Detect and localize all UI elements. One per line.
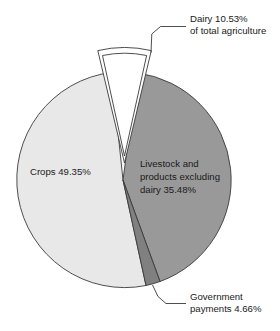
label-livestock-line3: dairy 35.48%	[140, 184, 196, 195]
label-government-payments-line1: Government	[190, 291, 243, 302]
leader-line-dairy	[151, 27, 186, 53]
leader-line-government-payments	[153, 285, 187, 304]
label-dairy-line1: Dairy 10.53%	[190, 13, 248, 24]
pie-chart-figure: Dairy 10.53% of total agriculture Crops …	[0, 0, 280, 331]
pie-chart-svg: Dairy 10.53% of total agriculture Crops …	[0, 0, 280, 331]
label-crops: Crops 49.35%	[30, 166, 91, 177]
label-government-payments-line2: payments 4.66%	[190, 303, 262, 314]
label-livestock-line2: products excluding	[140, 171, 220, 182]
label-livestock-line1: Livestock and	[140, 158, 199, 169]
label-dairy-line2: of total agriculture	[190, 25, 266, 36]
